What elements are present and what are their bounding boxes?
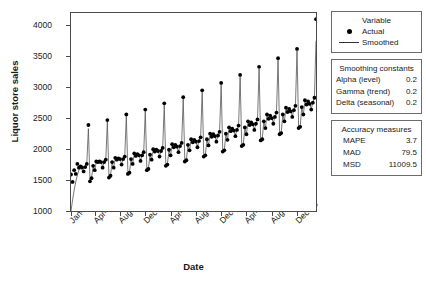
data-point [196,145,200,149]
legend-item-actual: Actual [336,26,417,37]
smoothing-row-delta: Delta (seasonal) 0.2 [336,97,417,109]
x-axis-title: Date [70,261,317,272]
y-axis-tick-label: 3000 [0,83,60,92]
accuracy-value-mad: 79.5 [401,147,417,159]
data-point [197,139,201,143]
data-point [90,176,94,180]
smoothing-value-delta: 0.2 [406,97,417,109]
y-axis-tick-label: 2500 [0,114,60,123]
data-point [235,128,239,132]
data-point [215,140,219,144]
y-axis-tick-label: 4000 [0,21,60,30]
data-point [75,162,79,166]
data-point [142,150,146,154]
data-point [167,148,171,152]
data-point [80,166,84,170]
data-point [254,122,258,126]
data-point [232,129,236,133]
data-point [245,132,249,136]
data-point [101,166,105,170]
data-point [271,122,275,126]
data-point [169,153,173,157]
data-point [292,108,296,112]
data-point [72,168,76,172]
data-point [262,119,266,123]
data-point [112,166,116,170]
data-point [124,113,128,117]
smoothed-line [71,41,316,211]
line-icon [336,42,362,43]
smoothing-value-alpha: 0.2 [406,74,417,86]
data-point [85,162,89,166]
data-point [93,168,97,172]
data-point [166,163,170,167]
data-point [184,158,188,162]
data-point [279,131,283,135]
data-point [216,134,220,138]
smoothing-row-alpha: Alpha (level) 0.2 [336,74,417,86]
legend-title: Variable [336,15,417,26]
data-point [301,113,305,117]
smoothing-key-gamma: Gamma (trend) [336,86,394,98]
data-point [295,47,299,51]
data-point [256,118,260,122]
data-point [243,126,247,130]
data-point [148,153,152,157]
data-point [110,160,114,164]
data-point [311,101,315,105]
plot-frame [70,12,317,212]
smoothing-constants-title: Smoothing constants [336,63,417,74]
data-point [104,158,108,162]
y-axis-tick-label: 3500 [0,52,60,61]
smoothing-key-alpha: Alpha (level) [336,74,384,86]
data-point [314,17,316,21]
data-point [241,143,245,147]
accuracy-measures-panel: Accuracy measures MAPE 3.7 MAD 79.5 MSD … [331,120,422,176]
data-point [273,115,277,119]
accuracy-key-mape: MAPE [336,135,370,147]
data-point [123,155,127,159]
data-point [219,81,223,85]
data-point [139,159,143,163]
data-point [238,73,242,77]
data-point [224,132,228,136]
data-point [120,163,124,167]
data-point [257,65,261,69]
data-point [290,115,294,119]
data-point [143,108,147,112]
data-point [71,180,74,184]
y-axis-tick-label: 1000 [0,207,60,216]
accuracy-value-mape: 3.7 [406,135,417,147]
data-point [260,137,264,141]
data-point [207,144,211,148]
data-point [71,173,73,177]
smoothing-key-delta: Delta (seasonal) [336,97,398,109]
smoothing-value-gamma: 0.2 [406,86,417,98]
legend-panel: Variable Actual Smoothed [331,11,422,53]
legend-item-smoothed: Smoothed [336,37,417,48]
data-point [86,123,90,127]
winters-method-chart-page: Liquor store sales 100015002000250030003… [0,0,426,283]
data-point [264,126,268,130]
data-point [161,146,165,150]
data-point [180,141,184,145]
y-axis-tick-label: 1500 [0,176,60,185]
data-point [203,153,207,157]
data-point [294,104,298,108]
data-point [74,172,78,176]
data-point [237,124,241,128]
accuracy-row-mad: MAD 79.5 [336,147,417,159]
data-point [251,122,255,126]
data-point [147,167,151,171]
accuracy-row-msd: MSD 11009.5 [336,159,417,171]
chart-area: Liquor store sales 100015002000250030003… [0,0,326,283]
data-point [275,111,279,115]
data-point [158,155,162,159]
data-point [128,171,132,175]
data-point [281,113,285,117]
data-point [313,96,316,100]
data-point [194,140,198,144]
data-point [91,164,95,168]
plot-series-svg [71,13,316,211]
smoothing-row-gamma: Gamma (trend) 0.2 [336,86,417,98]
